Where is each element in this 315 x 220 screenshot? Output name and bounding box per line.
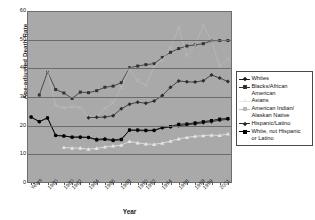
series-american-indian-alaskan-native xyxy=(46,23,230,119)
x-tick-mark xyxy=(72,183,73,185)
data-point xyxy=(103,115,107,119)
data-point xyxy=(95,89,98,92)
legend-item[interactable]: Blacks/African American xyxy=(239,83,310,97)
data-point xyxy=(79,136,82,139)
data-point xyxy=(169,46,173,50)
data-point xyxy=(226,117,229,120)
data-point xyxy=(87,136,90,139)
x-tick-mark xyxy=(113,183,114,185)
legend-item[interactable]: American Indian/ Alaskan Native xyxy=(239,105,310,119)
data-point xyxy=(201,23,205,27)
x-tick-mark xyxy=(171,183,172,185)
data-point xyxy=(202,120,205,123)
data-point xyxy=(185,80,189,84)
gridline xyxy=(27,97,232,98)
data-point xyxy=(193,80,197,84)
data-point xyxy=(128,128,131,131)
data-point xyxy=(62,134,65,137)
x-tick-mark xyxy=(121,183,122,185)
data-point xyxy=(153,129,156,132)
x-tick-mark xyxy=(212,183,213,185)
series-asians xyxy=(62,132,230,151)
y-tick-label: 30 xyxy=(12,94,26,100)
legend-label: American Indian/ Alaskan Native xyxy=(252,105,295,119)
series-white-not-hispanic-or-latino xyxy=(30,116,230,143)
y-tick-label: 40 xyxy=(12,65,26,71)
data-point xyxy=(38,120,41,123)
data-point xyxy=(103,86,106,89)
data-point xyxy=(169,51,172,54)
x-tick-mark xyxy=(195,183,196,185)
legend-item[interactable]: Asians xyxy=(239,97,310,105)
data-point xyxy=(185,44,188,47)
legend-label: Whites xyxy=(252,75,269,82)
data-point xyxy=(95,139,98,142)
x-axis-title: Year xyxy=(27,208,232,215)
chart-figure: Age-adjusted Death Rate 0102030405060 Ye… xyxy=(0,0,315,220)
data-point xyxy=(54,134,57,137)
data-point xyxy=(87,91,90,94)
x-tick-mark xyxy=(220,183,221,185)
legend-label: White, not Hispanic or Latino xyxy=(252,128,301,142)
y-tick-label: 50 xyxy=(12,37,26,43)
y-tick-label: 20 xyxy=(12,123,26,129)
x-tick-mark xyxy=(138,183,139,185)
gridline xyxy=(27,11,232,12)
x-tick-mark xyxy=(130,183,131,185)
data-point xyxy=(144,63,147,66)
legend-item[interactable]: Hispanic/Latino xyxy=(239,120,310,128)
y-tick-label: 60 xyxy=(12,8,26,14)
data-point xyxy=(177,47,180,50)
data-point xyxy=(226,57,230,61)
legend-label: Hispanic/Latino xyxy=(252,120,291,127)
gridline xyxy=(27,40,232,41)
data-point xyxy=(194,121,197,124)
x-tick-mark xyxy=(179,183,180,185)
data-point xyxy=(120,138,123,141)
gridline xyxy=(27,126,232,127)
legend-item[interactable]: White, not Hispanic or Latino xyxy=(239,128,310,142)
data-point xyxy=(218,76,222,80)
x-tick-mark xyxy=(64,183,65,185)
x-tick-mark xyxy=(56,183,57,185)
data-point xyxy=(30,116,33,119)
plot-area xyxy=(27,11,232,183)
data-point xyxy=(226,132,230,136)
data-point xyxy=(62,91,65,94)
data-point xyxy=(103,106,107,110)
data-point xyxy=(119,85,123,89)
data-point xyxy=(79,91,82,94)
x-tick-mark xyxy=(31,183,32,185)
x-tick-mark xyxy=(154,183,155,185)
y-tick-label: 10 xyxy=(12,151,26,157)
data-point xyxy=(103,138,106,141)
series-line xyxy=(39,41,228,99)
data-point xyxy=(136,79,140,83)
gridline xyxy=(27,154,232,155)
data-point xyxy=(128,102,132,106)
data-point xyxy=(136,65,139,68)
series-whites xyxy=(29,115,230,142)
x-tick-mark xyxy=(39,183,40,185)
x-tick-mark xyxy=(80,183,81,185)
series-blacks-african-american xyxy=(38,39,230,100)
x-tick-mark xyxy=(105,183,106,185)
data-point xyxy=(218,118,221,121)
legend-marker-icon xyxy=(239,128,250,135)
data-point xyxy=(144,83,148,87)
gridline xyxy=(27,68,232,69)
legend-marker-icon xyxy=(239,84,250,91)
legend-item[interactable]: Whites xyxy=(239,75,310,83)
data-point xyxy=(128,139,132,143)
data-point xyxy=(71,136,74,139)
x-tick-mark xyxy=(97,183,98,185)
data-point xyxy=(54,88,57,91)
x-tick-mark xyxy=(203,183,204,185)
data-point xyxy=(120,81,123,84)
data-point xyxy=(111,101,115,105)
data-point xyxy=(210,119,213,122)
legend-marker-icon xyxy=(239,120,250,127)
data-point xyxy=(136,128,139,131)
data-point xyxy=(144,129,147,132)
legend-marker-icon xyxy=(239,76,250,83)
